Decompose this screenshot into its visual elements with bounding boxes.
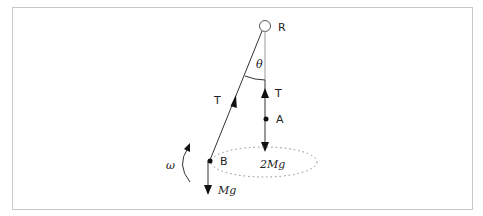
weight-b-arrow-down (204, 185, 212, 195)
tension-left-label: T (213, 94, 221, 107)
tension-right-label: T (274, 87, 282, 100)
angular-velocity-label: ω (166, 159, 175, 172)
rotation-arc (182, 148, 190, 182)
tension-arrow-slanted (231, 95, 237, 108)
free-body-diagram: R T A T θ 2Mg B Mg ω (0, 0, 483, 216)
pivot-label: R (278, 21, 286, 34)
rotation-arrow-icon (184, 143, 190, 152)
mass-a-label: A (276, 113, 284, 126)
mass-a-dot (264, 117, 269, 122)
angle-arc (245, 76, 265, 80)
angle-label: θ (256, 58, 263, 71)
pivot-circle (260, 21, 271, 32)
weight-b-label: Mg (217, 184, 236, 197)
tension-arrow-up (261, 88, 269, 98)
mass-b-label: B (220, 155, 228, 168)
weight-a-label: 2Mg (259, 158, 285, 171)
